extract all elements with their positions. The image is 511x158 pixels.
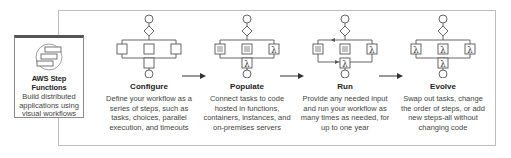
svg-text:λ: λ <box>440 45 446 55</box>
svg-text:λ: λ <box>244 59 250 69</box>
svg-text:λ: λ <box>271 45 277 55</box>
stage-description: Define your workflow as a series of step… <box>100 94 198 132</box>
stage-description: Swap out tasks, change the order of step… <box>393 94 493 132</box>
aws-step-functions-card: AWS Step Functions Build distributed app… <box>14 35 84 118</box>
stage-title: Populate <box>197 82 297 91</box>
svg-text:λ: λ <box>440 59 446 69</box>
svg-text:λ: λ <box>369 45 375 55</box>
stage-evolve: λ λ λ λ Evolve Swap out tasks, change th… <box>393 14 493 132</box>
product-description: Build distributed applications using vis… <box>15 93 83 119</box>
stage-title: Evolve <box>393 82 493 91</box>
workflow-lambda-steps-icon: λ λ λ λ <box>403 14 483 78</box>
workflow-running-icon: λ λ <box>305 14 385 78</box>
workflow-populated-tasks-icon: λ λ <box>207 14 287 78</box>
product-title: AWS Step Functions <box>15 74 83 92</box>
workflow-empty-steps-icon <box>109 14 189 78</box>
stage-title: Run <box>295 82 395 91</box>
svg-text:λ: λ <box>467 45 473 55</box>
step-functions-icon <box>32 42 66 72</box>
svg-text:λ: λ <box>413 45 419 55</box>
stage-description: Provide any needed input and run your wo… <box>295 94 395 132</box>
stage-title: Configure <box>100 82 198 91</box>
svg-text:λ: λ <box>342 59 348 69</box>
stage-description: Connect tasks to code hosted in function… <box>197 94 297 132</box>
